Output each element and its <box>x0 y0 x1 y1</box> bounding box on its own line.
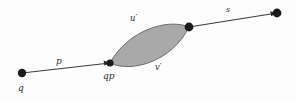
s-endpoint-vertex-dot <box>273 9 282 18</box>
qp-vertex-dot <box>106 59 113 66</box>
label-p: p <box>56 57 62 66</box>
label-q: q <box>18 84 24 93</box>
label-v-prime: v′ <box>155 63 162 72</box>
label-u-prime: u′ <box>130 14 137 23</box>
edge-p-line <box>22 63 110 73</box>
q-vertex-dot <box>18 69 26 77</box>
diagram-canvas <box>0 0 297 102</box>
label-qp: qp <box>103 72 115 81</box>
lens-right-vertex-dot <box>185 23 194 32</box>
bigon-region-shape <box>110 24 189 66</box>
label-s: s <box>226 6 230 14</box>
edge-s-line <box>189 13 277 27</box>
figure-container: q p qp u′ v′ s <box>0 0 297 102</box>
